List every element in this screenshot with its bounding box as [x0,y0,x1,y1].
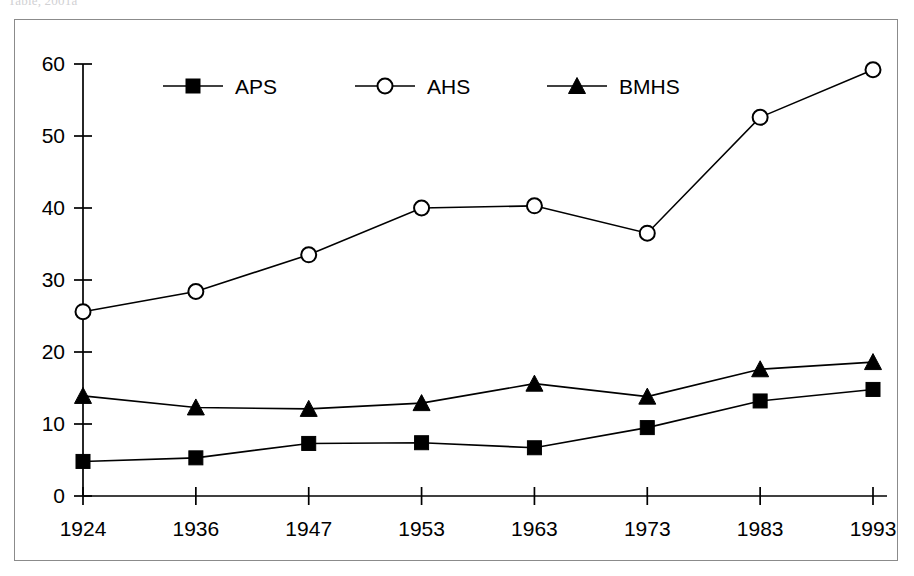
series-aps [76,382,880,468]
data-point-aps-1973 [640,421,654,435]
data-point-aps-1924 [76,454,90,468]
legend-label-aps: APS [235,75,277,98]
data-point-ahs-1924 [76,304,91,319]
legend-item-ahs: AHS [355,75,470,98]
data-point-ahs-1963 [527,198,542,213]
x-tick-label: 1936 [172,517,219,540]
data-point-aps-1983 [753,394,767,408]
y-tick-label: 40 [42,196,65,219]
data-point-ahs-1936 [188,284,203,299]
data-point-ahs-1983 [753,110,768,125]
data-point-bmhs-1924 [75,387,92,403]
data-point-aps-1953 [415,436,429,450]
y-axis-tick-labels: 0102030405060 [42,52,65,507]
cropped-caption-text: Table, 2001a [8,0,77,9]
data-point-ahs-1993 [866,62,881,77]
chart-legend: APSAHSBMHS [163,75,680,98]
x-tick-label: 1993 [850,517,897,540]
y-tick-label: 50 [42,124,65,147]
x-tick-label: 1963 [511,517,558,540]
series-layer [75,62,882,468]
data-point-aps-1947 [302,436,316,450]
figure-frame: 0102030405060 19241936194719531963197319… [14,19,898,561]
data-point-ahs-1947 [301,247,316,262]
legend-marker-ahs [378,79,393,94]
legend-item-bmhs: BMHS [547,75,680,98]
legend-label-ahs: AHS [427,75,470,98]
legend-label-bmhs: BMHS [619,75,680,98]
y-tick-label: 30 [42,268,65,291]
y-tick-label: 60 [42,52,65,75]
line-chart: 0102030405060 19241936194719531963197319… [15,20,897,560]
x-tick-label: 1983 [737,517,784,540]
series-ahs [76,62,881,319]
x-tick-label: 1924 [60,517,107,540]
y-tick-label: 0 [53,484,65,507]
x-tick-label: 1947 [285,517,332,540]
y-tick-label: 20 [42,340,65,363]
data-point-ahs-1953 [414,201,429,216]
x-tick-label: 1953 [398,517,445,540]
data-point-aps-1963 [527,441,541,455]
data-point-ahs-1973 [640,226,655,241]
series-line-ahs [83,70,873,312]
x-tick-label: 1973 [624,517,671,540]
data-point-bmhs-1993 [865,354,882,370]
x-axis-tick-labels: 19241936194719531963197319831993 [60,517,897,540]
legend-marker-aps [186,79,200,93]
legend-item-aps: APS [163,75,277,98]
scanned-page: Table, 2001a 0102030405060 1924193619471… [0,0,914,576]
data-point-bmhs-1963 [526,375,543,391]
data-point-aps-1993 [866,382,880,396]
y-tick-label: 10 [42,412,65,435]
data-point-aps-1936 [189,451,203,465]
